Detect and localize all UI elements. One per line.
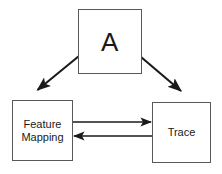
node-a: A [78, 9, 142, 74]
edge-a-to-feature-mapping-arrow [38, 56, 80, 90]
node-feature-mapping: Feature Mapping [12, 100, 73, 161]
node-feature-mapping-label: Feature Mapping [21, 118, 63, 144]
edge-a-to-trace-arrow [141, 57, 181, 91]
diagram-canvas: A Feature Mapping Trace [0, 0, 222, 174]
node-trace: Trace [152, 102, 211, 163]
node-a-label: A [101, 29, 119, 55]
node-trace-label: Trace [168, 126, 196, 139]
